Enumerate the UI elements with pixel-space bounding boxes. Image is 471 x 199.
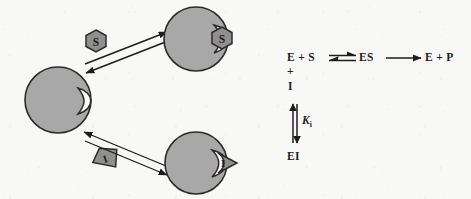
diagram-artwork: S I S I — [0, 0, 471, 199]
free-enzyme — [25, 67, 91, 133]
equation-branch-plus: + — [287, 65, 294, 77]
es-complex: S — [164, 7, 232, 71]
figure-canvas: S I S I — [0, 0, 471, 199]
equation-branch-inhibitor: I — [288, 80, 293, 92]
ei-complex-enzyme-body — [165, 132, 227, 194]
equation-ei-complex: EI — [287, 150, 300, 162]
equation-es-complex: ES — [359, 51, 374, 63]
inhibition-constant-symbol: K — [302, 114, 310, 126]
free-substrate-label: S — [93, 36, 99, 48]
ei-complex: I — [165, 132, 237, 194]
equation-products: E + P — [425, 51, 454, 63]
equation-inhibition-constant: Ki — [302, 114, 312, 129]
equation-enzyme-substrate: E + S — [287, 51, 315, 63]
free-enzyme-body — [25, 67, 91, 133]
free-inhibitor: I — [89, 143, 122, 174]
vertical-double-arrow — [293, 104, 297, 143]
inhibition-constant-subscript: i — [310, 120, 312, 129]
equilibrium-double-arrow — [329, 56, 356, 61]
es-complex-substrate-label: S — [219, 33, 225, 45]
free-substrate: S — [86, 30, 106, 52]
ei-complex-inhibitor-label: I — [221, 158, 225, 169]
